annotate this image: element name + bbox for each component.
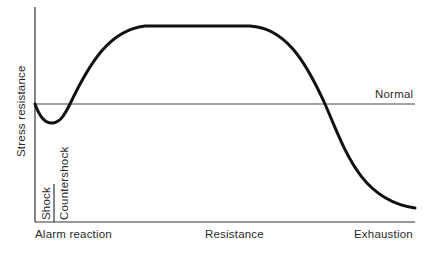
- phase-exhaustion-label: Exhaustion: [354, 228, 413, 240]
- normal-label: Normal: [375, 88, 413, 100]
- y-axis-label: Stress resistance: [15, 65, 27, 157]
- countershock-label: Countershock: [58, 147, 70, 220]
- shock-label: Shock: [40, 187, 52, 220]
- resistance-curve: [35, 26, 415, 208]
- phase-alarm-label: Alarm reaction: [35, 228, 112, 240]
- phase-resistance-label: Resistance: [205, 228, 264, 240]
